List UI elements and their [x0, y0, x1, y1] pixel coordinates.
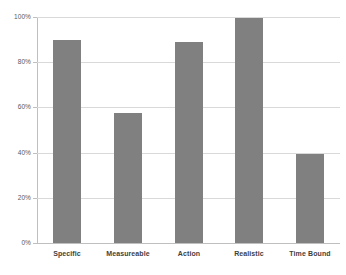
bar — [53, 40, 81, 243]
y-axis-tick-mark — [33, 198, 37, 199]
y-axis-tick-label: 40% — [0, 150, 31, 157]
bar — [114, 113, 142, 243]
y-axis-tick-label: 20% — [0, 195, 31, 202]
gridline — [37, 243, 340, 244]
x-axis-category-label: Time Bound — [267, 250, 346, 257]
y-axis-tick-label: 80% — [0, 59, 31, 66]
bar — [296, 154, 324, 243]
y-axis-tick-mark — [33, 107, 37, 108]
y-axis-tick-mark — [33, 62, 37, 63]
bar — [235, 18, 263, 243]
y-axis-tick-label: 60% — [0, 104, 31, 111]
y-axis-tick-mark — [33, 153, 37, 154]
y-axis-tick-mark — [33, 17, 37, 18]
y-axis-tick-label: 100% — [0, 14, 31, 21]
bar — [175, 42, 203, 243]
bar-chart: 0%20%40%60%80%100% SpecificMeasureableAc… — [0, 0, 346, 275]
y-axis-tick-label: 0% — [0, 240, 31, 247]
gridline — [37, 17, 340, 18]
y-axis-tick-mark — [33, 243, 37, 244]
